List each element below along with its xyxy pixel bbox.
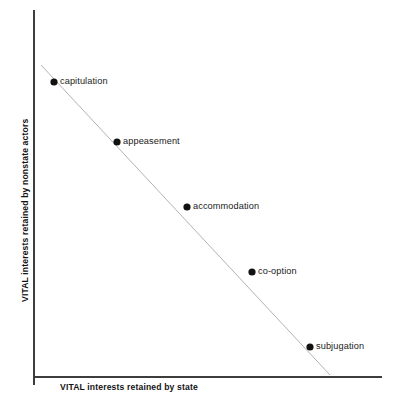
data-point-label: appeasement	[123, 137, 180, 146]
data-point-marker	[50, 78, 57, 85]
data-point-marker	[306, 343, 313, 350]
data-point-marker	[248, 268, 255, 275]
x-axis-title: VITAL interests retained by state	[60, 383, 198, 392]
chart-container: capitulationappeasementaccommodationco-o…	[0, 0, 399, 409]
data-point-label: subjugation	[316, 342, 364, 351]
trend-line-segment	[41, 65, 330, 375]
data-point-marker	[183, 203, 190, 210]
data-point-label: capitulation	[60, 77, 108, 86]
chart-axes	[34, 10, 382, 385]
data-points	[50, 78, 313, 350]
data-point-marker	[113, 138, 120, 145]
data-point-label: accommodation	[193, 202, 259, 211]
y-axis-title: VITAL interests retained by nonstate act…	[21, 119, 30, 302]
trend-line	[41, 65, 330, 375]
data-point-label: co-option	[258, 267, 297, 276]
